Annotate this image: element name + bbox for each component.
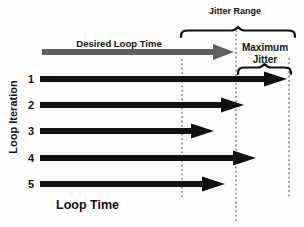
jitter-range-label: Jitter Range [209,6,261,16]
maximum-jitter-label-line2: Jitter [253,54,278,65]
jitter-range-brace [181,27,295,37]
iteration-4-arrow-head [233,151,256,166]
iteration-5-arrow-head [202,177,225,192]
iteration-number-4: 4 [28,152,35,164]
iteration-2-arrow-head [221,98,244,113]
loop-time-axis-label: Loop Time [56,198,119,212]
iteration-1-arrow-head [264,72,287,87]
iteration-number-1: 1 [28,73,34,85]
desired-loop-time-arrow-head [213,44,234,60]
iteration-number-2: 2 [28,99,34,111]
iteration-number-3: 3 [28,125,34,137]
loop-iteration-axis-label: Loop Iteration [7,80,19,154]
iteration-arrows: 12345 [28,72,287,192]
maximum-jitter-label-line1: Maximum [242,42,288,53]
loop-jitter-diagram: 12345 Jitter Range Desired Loop Time Max… [0,0,304,227]
iteration-3-arrow-head [191,124,214,139]
diagram-canvas: 12345 Jitter Range Desired Loop Time Max… [0,0,304,227]
desired-loop-time-label: Desired Loop Time [76,38,161,49]
iteration-number-5: 5 [28,178,34,190]
